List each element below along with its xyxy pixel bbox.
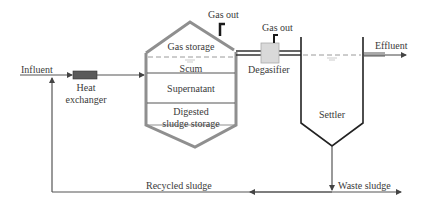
effluent-pipe — [363, 53, 406, 56]
digested-sludge-label-line2: sludge storage — [148, 118, 234, 129]
digested-sludge-label-line1: Digested — [148, 106, 234, 117]
waste-sludge-label: Waste sludge — [338, 180, 391, 191]
settler-label: Settler — [303, 109, 361, 120]
heat-exchanger-label-line1: Heat — [72, 82, 100, 93]
effluent-label: Effluent — [375, 40, 408, 51]
gas-out-pipe-digester — [220, 24, 225, 36]
gas-out-degasifier-label: Gas out — [262, 22, 293, 33]
gas-storage-label: Gas storage — [148, 41, 234, 52]
supernatant-label: Supernatant — [148, 83, 234, 94]
degasifier — [261, 43, 279, 63]
degasifier-label: Degasifier — [248, 64, 290, 75]
influent-label: Influent — [21, 64, 53, 75]
gas-out-digester-label: Gas out — [208, 9, 239, 20]
heat-exchanger — [73, 71, 97, 79]
heat-exchanger-label-line2: exchanger — [62, 94, 110, 105]
gas-out-pipe-degasifier — [274, 35, 278, 43]
scum-label: Scum — [148, 63, 234, 74]
recycled-sludge-label: Recycled sludge — [146, 180, 212, 191]
